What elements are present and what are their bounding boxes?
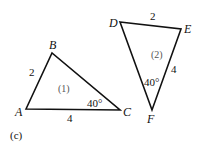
vertex-label-e: E [183, 22, 192, 36]
angle-label-c: 40° [87, 97, 102, 109]
vertex-label-c: C [123, 105, 132, 119]
side-label-ac: 4 [67, 112, 73, 124]
figure-label: (c) [10, 129, 23, 142]
vertex-label-d: D [108, 16, 118, 30]
triangle-1 [26, 53, 120, 110]
region-label-1: (1) [58, 83, 70, 95]
vertex-label-a: A [14, 105, 23, 119]
side-label-ef: 4 [171, 63, 177, 75]
side-label-ab: 2 [29, 66, 35, 78]
side-label-de: 2 [150, 10, 156, 22]
diagram-canvas: B A C 2 4 (1) 40° D E F 2 4 (2) 40° (c) [0, 0, 206, 148]
vertex-label-b: B [49, 38, 57, 52]
vertex-label-f: F [146, 112, 155, 126]
region-label-2: (2) [151, 49, 163, 61]
angle-label-f: 40° [144, 76, 159, 88]
